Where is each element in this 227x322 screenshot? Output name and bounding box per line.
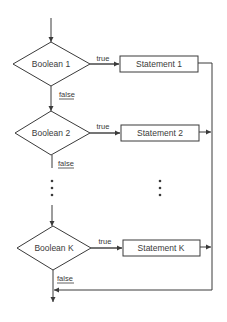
decision-label-2: Boolean 2 — [32, 128, 71, 138]
ellipsis-left — [51, 180, 54, 197]
true-label-1: true — [97, 54, 110, 63]
true-label-k: true — [99, 237, 112, 246]
statement-label-k: Statement K — [138, 243, 185, 253]
statement-label-1: Statement 1 — [136, 59, 182, 69]
false-label-1: false — [59, 90, 75, 99]
false-label-k: false — [57, 274, 73, 283]
decision-label-k: Boolean K — [34, 243, 74, 253]
decision-label-1: Boolean 1 — [32, 59, 71, 69]
statement-label-2: Statement 2 — [137, 128, 183, 138]
statement-exit-1 — [198, 63, 212, 238]
true-label-2: true — [97, 122, 110, 131]
flowchart: Boolean 1 true Statement 1 false Boolean… — [0, 0, 227, 322]
ellipsis-right — [159, 180, 162, 197]
false-label-2: false — [58, 159, 74, 168]
